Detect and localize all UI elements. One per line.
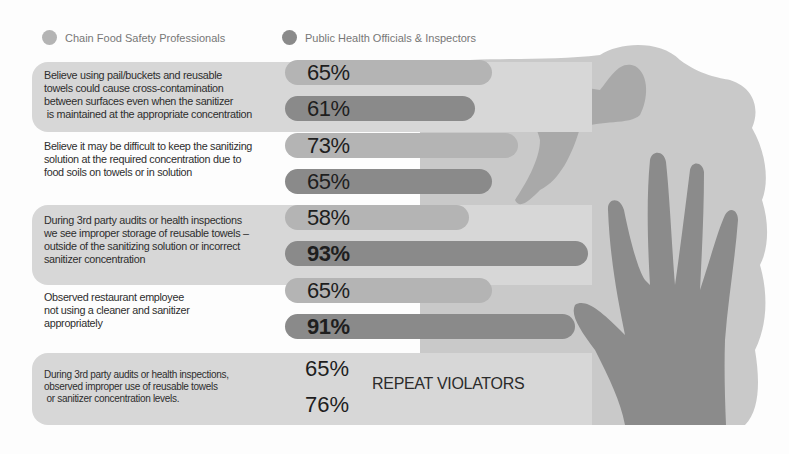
bar-chain-3: 58% (285, 205, 469, 230)
value-public-5: 76% (305, 393, 349, 417)
repeat-violators-label: REPEAT VIOLATORS (372, 375, 524, 393)
legend-dot-public (282, 30, 297, 45)
value-chain-5: 65% (305, 357, 349, 381)
bar-public-1: 61% (285, 96, 475, 121)
bar-public-2: 65% (285, 169, 492, 194)
question-1: Believe using pail/buckets and reusable … (44, 69, 252, 121)
question-2: Believe it may be difficult to keep the … (44, 140, 252, 179)
question-3: During 3rd party audits or health inspec… (44, 214, 249, 266)
question-5: During 3rd party audits or health inspec… (44, 369, 229, 405)
question-4: Observed restaurant employee not using a… (44, 291, 190, 330)
bar-chain-2: 73% (285, 133, 518, 158)
legend-dot-chain (42, 30, 57, 45)
legend-label-chain: Chain Food Safety Professionals (65, 32, 225, 44)
legend-label-public: Public Health Officials & Inspectors (305, 32, 476, 44)
legend-item-chain: Chain Food Safety Professionals (42, 30, 225, 45)
legend-item-public: Public Health Officials & Inspectors (282, 30, 476, 45)
bar-public-4: 91% (285, 314, 575, 339)
bar-chain-4: 65% (285, 278, 492, 303)
bar-public-3: 93% (285, 241, 588, 266)
bar-chain-1: 65% (285, 60, 492, 85)
